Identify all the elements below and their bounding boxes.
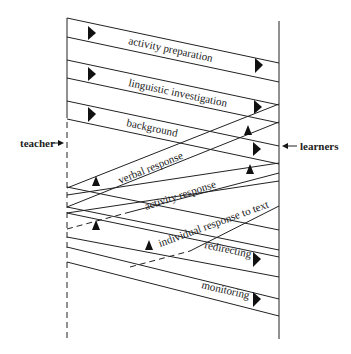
interaction-diagram: activity preparation linguistic investig…	[0, 0, 351, 354]
arrow-up-icon	[145, 240, 153, 250]
band-activity-preparation: activity preparation	[67, 18, 279, 82]
arrow-right-icon	[88, 67, 96, 81]
learners-label: learners	[300, 140, 339, 152]
learners-label-group: learners	[282, 140, 339, 152]
arrow-right-icon	[58, 140, 64, 146]
arrow-right-icon	[88, 107, 96, 122]
band-label: activity response	[143, 178, 217, 212]
arrow-right-icon	[253, 252, 261, 267]
teacher-label-group: teacher	[20, 137, 64, 149]
arrow-right-icon	[255, 58, 263, 73]
teacher-label: teacher	[20, 137, 55, 149]
arrow-up-icon	[92, 220, 100, 230]
arrow-right-icon	[253, 142, 261, 156]
band-linguistic-investigation: linguistic investigation	[67, 60, 279, 123]
band-label: linguistic investigation	[128, 76, 229, 109]
arrow-up-icon	[246, 164, 254, 174]
band-label: redirecting	[204, 238, 254, 260]
arrow-right-icon	[88, 26, 96, 40]
arrow-up-icon	[244, 125, 252, 135]
